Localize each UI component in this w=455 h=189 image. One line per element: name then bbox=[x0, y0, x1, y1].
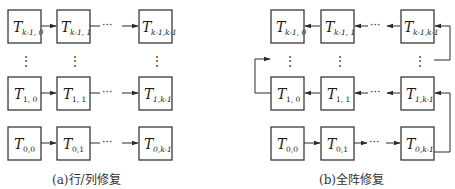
svg-text:1,k-1: 1,k-1 bbox=[153, 95, 172, 104]
h-ellipsis: ··· bbox=[370, 86, 381, 99]
panel-b: T k-1, 0 T k-1, 1 T k-1,k-1 ··· ⋮ ⋮ ⋮ bbox=[255, 10, 450, 160]
cell-b-1-0: T 1, 0 bbox=[271, 77, 304, 110]
cell-a-k1-1: T k-1, 1 bbox=[57, 10, 91, 43]
svg-text:1, 1: 1, 1 bbox=[336, 95, 350, 104]
cell-a-0-k1: T 0,k-1 bbox=[139, 127, 172, 160]
wrap-arrow-to-dots-row bbox=[255, 59, 271, 93]
svg-text:0,k-1: 0,k-1 bbox=[153, 145, 172, 154]
h-ellipsis: ··· bbox=[369, 136, 380, 149]
figure: T k-1, 0 T k-1, 1 T k-1,k-1 ··· ⋮ ⋮ ⋮ bbox=[0, 0, 455, 189]
h-ellipsis: ··· bbox=[102, 86, 113, 99]
cell-a-1-k1: T 1,k-1 bbox=[139, 77, 172, 110]
svg-text:k-1,k-1: k-1,k-1 bbox=[413, 28, 439, 37]
cell-b-0-1: T 0,1 bbox=[321, 127, 354, 160]
cell-b-0-0: T 0,0 bbox=[271, 127, 304, 160]
cell-b-1-k1: T 1,k-1 bbox=[401, 77, 434, 110]
v-ellipsis: ⋮ bbox=[414, 54, 426, 68]
svg-text:k-1, 0: k-1, 0 bbox=[285, 28, 306, 37]
v-ellipsis: ⋮ bbox=[284, 54, 296, 68]
svg-text:1, 0: 1, 0 bbox=[286, 95, 301, 104]
v-ellipsis: ⋮ bbox=[151, 54, 163, 68]
svg-text:k-1, 1: k-1, 1 bbox=[334, 28, 355, 37]
panel-a: T k-1, 0 T k-1, 1 T k-1,k-1 ··· ⋮ ⋮ ⋮ bbox=[8, 10, 177, 160]
cell-a-k1-k1: T k-1,k-1 bbox=[139, 10, 177, 43]
svg-text:k-1, 0: k-1, 0 bbox=[22, 28, 43, 37]
wrap-arrow-to-row-1 bbox=[434, 93, 450, 152]
h-ellipsis: ··· bbox=[370, 19, 381, 32]
svg-text:0,1: 0,1 bbox=[336, 145, 348, 154]
cell-b-1-1: T 1, 1 bbox=[321, 77, 354, 110]
v-ellipsis: ⋮ bbox=[69, 54, 81, 68]
svg-text:k-1, 1: k-1, 1 bbox=[70, 28, 91, 37]
cell-a-0-0: T 0,0 bbox=[8, 127, 41, 160]
svg-text:1, 0: 1, 0 bbox=[23, 95, 38, 104]
caption-a: (a)行/列修复 bbox=[52, 170, 121, 187]
svg-text:1,k-1: 1,k-1 bbox=[415, 95, 434, 104]
v-ellipsis: ⋮ bbox=[334, 54, 346, 68]
cell-b-0-k1: T 0,k-1 bbox=[401, 127, 434, 160]
caption-b: (b)全阵修复 bbox=[319, 170, 384, 187]
svg-text:k-1,k-1: k-1,k-1 bbox=[151, 28, 177, 37]
diagram-canvas: T k-1, 0 T k-1, 1 T k-1,k-1 ··· ⋮ ⋮ ⋮ bbox=[0, 0, 455, 189]
cell-b-k1-1: T k-1, 1 bbox=[321, 10, 355, 43]
h-ellipsis: ··· bbox=[102, 19, 113, 32]
v-ellipsis: ⋮ bbox=[20, 54, 32, 68]
cell-a-1-0: T 1, 0 bbox=[8, 77, 41, 110]
svg-text:0,k-1: 0,k-1 bbox=[415, 145, 434, 154]
svg-text:0,1: 0,1 bbox=[72, 145, 84, 154]
svg-text:0,0: 0,0 bbox=[286, 145, 298, 154]
cell-a-k1-0: T k-1, 0 bbox=[8, 10, 43, 43]
svg-text:1, 1: 1, 1 bbox=[72, 95, 86, 104]
cell-b-k1-k1: T k-1,k-1 bbox=[401, 10, 439, 43]
h-ellipsis: ··· bbox=[102, 136, 113, 149]
cell-b-k1-0: T k-1, 0 bbox=[271, 10, 306, 43]
cell-a-1-1: T 1, 1 bbox=[57, 77, 90, 110]
svg-text:0,0: 0,0 bbox=[23, 145, 35, 154]
cell-a-0-1: T 0,1 bbox=[57, 127, 90, 160]
